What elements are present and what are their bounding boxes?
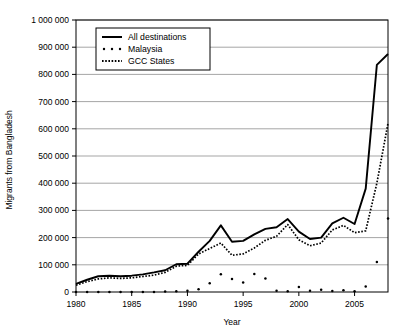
series-malaysia-point xyxy=(119,291,122,294)
series-malaysia-point xyxy=(97,291,100,294)
series-malaysia-point xyxy=(153,291,156,294)
series-malaysia-point xyxy=(320,289,323,292)
x-tick-label: 1980 xyxy=(67,299,86,309)
legend-swatch-malaysia xyxy=(111,48,113,50)
series-malaysia-point xyxy=(286,290,289,293)
legend-swatch-malaysia xyxy=(103,48,105,50)
y-tick-label: 300 000 xyxy=(38,205,69,215)
series-malaysia-point xyxy=(376,261,379,264)
series-malaysia-point xyxy=(130,291,133,294)
series-malaysia-point xyxy=(220,273,223,276)
y-tick-label: 500 000 xyxy=(38,151,69,161)
x-axis-title: Year xyxy=(223,317,240,327)
series-malaysia-point xyxy=(275,289,278,292)
series-malaysia-point xyxy=(253,273,256,276)
series-malaysia-point xyxy=(164,290,167,293)
y-tick-label: 400 000 xyxy=(38,178,69,188)
y-tick-label: 800 000 xyxy=(38,69,69,79)
y-tick-label: 900 000 xyxy=(38,42,69,52)
legend-label: Malaysia xyxy=(128,44,162,54)
series-malaysia-point xyxy=(208,282,211,285)
series-malaysia-point xyxy=(309,289,312,292)
migration-line-chart: 0100 000200 000300 000400 000500 000600 … xyxy=(0,0,405,330)
y-tick-label: 0 xyxy=(64,287,69,297)
y-tick-label: 600 000 xyxy=(38,124,69,134)
y-tick-label: 700 000 xyxy=(38,97,69,107)
y-tick-label: 200 000 xyxy=(38,233,69,243)
series-malaysia-point xyxy=(364,285,367,288)
legend-swatch-malaysia xyxy=(119,48,121,50)
x-tick-label: 1995 xyxy=(234,299,253,309)
y-tick-label: 1 000 000 xyxy=(31,15,69,25)
chart-figure: 0100 000200 000300 000400 000500 000600 … xyxy=(0,0,405,330)
series-malaysia-point xyxy=(264,277,267,280)
series-malaysia-point xyxy=(186,289,189,292)
series-malaysia-point xyxy=(175,290,178,293)
series-malaysia-point xyxy=(108,291,111,294)
series-malaysia-point xyxy=(387,217,390,220)
series-malaysia-point xyxy=(86,291,89,294)
series-malaysia-point xyxy=(298,286,301,289)
series-malaysia-point xyxy=(242,281,245,284)
series-malaysia-point xyxy=(342,289,345,292)
legend-label: GCC States xyxy=(128,56,175,66)
y-axis-title: Migrants from Bangladesh xyxy=(4,110,14,209)
series-malaysia-point xyxy=(75,291,78,294)
legend-label: All destinations xyxy=(128,32,187,42)
y-tick-label: 100 000 xyxy=(38,260,69,270)
x-tick-label: 2005 xyxy=(345,299,364,309)
x-tick-label: 2000 xyxy=(289,299,308,309)
x-tick-label: 1990 xyxy=(178,299,197,309)
x-tick-label: 1985 xyxy=(122,299,141,309)
chart-legend: All destinationsMalaysiaGCC States xyxy=(96,28,210,70)
series-malaysia-point xyxy=(197,288,200,291)
series-malaysia-point xyxy=(142,291,145,294)
series-malaysia-point xyxy=(331,290,334,293)
series-malaysia-point xyxy=(231,278,234,281)
series-malaysia-point xyxy=(353,290,356,293)
